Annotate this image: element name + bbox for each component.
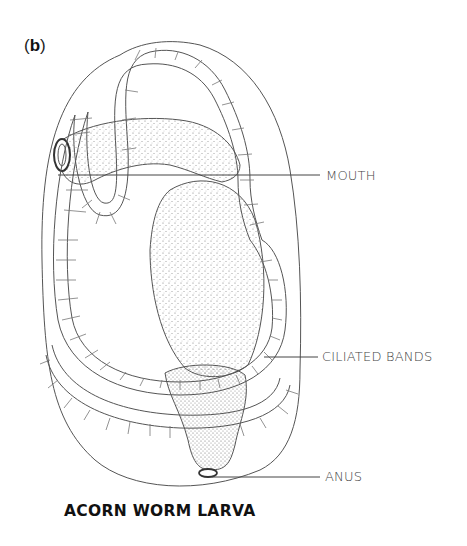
stomach	[150, 181, 264, 377]
label-ciliated-bands: CILIATED BANDS	[322, 349, 432, 364]
anus-opening	[199, 469, 217, 477]
figure-title: ACORN WORM LARVA	[64, 502, 255, 520]
label-anus: ANUS	[325, 469, 362, 484]
label-mouth: MOUTH	[326, 168, 376, 183]
larva-illustration	[0, 0, 467, 546]
